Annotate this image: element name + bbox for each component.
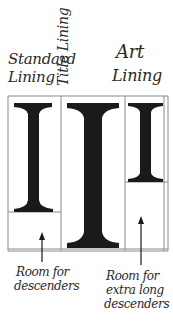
descender-arrow-art: [138, 216, 144, 265]
standard-lining-glyph: [14, 103, 53, 212]
title-lining-glyph: [67, 103, 119, 248]
art-annotation-line3: descenders: [104, 298, 169, 310]
art-lining-glyph: [128, 103, 163, 182]
art-annotation-line2: extra long: [106, 284, 164, 296]
standard-annotation-line2: descenders: [14, 280, 79, 292]
art-annotation-line1: Room for: [106, 270, 159, 282]
descender-arrow-standard: [39, 232, 45, 262]
standard-annotation-line1: Room for: [16, 266, 69, 278]
